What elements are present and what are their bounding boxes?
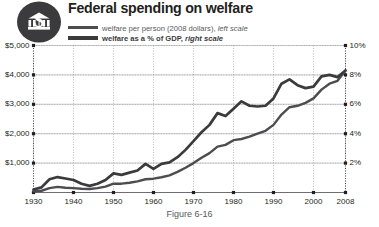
y-axis-right-tick-label: 4% [350, 129, 379, 138]
y-axis-left-tick-label: $2,000 [0, 129, 30, 138]
axis-tick-marks [32, 44, 347, 194]
x-axis-tick-label: 1970 [174, 197, 214, 206]
chart-plot-area: $1,000$2,000$3,000$4,000$5,0002%4%6%8%10… [0, 0, 379, 210]
x-axis-tick-label: 2008 [326, 197, 366, 206]
x-axis-tick-label: 1980 [214, 197, 254, 206]
figure-container: $ Federal spending on welfare welfare pe… [0, 0, 379, 227]
y-axis-left-tick-label: $5,000 [0, 41, 30, 50]
x-axis-tick-label: 1990 [254, 197, 294, 206]
x-axis-tick-label: 1930 [14, 197, 54, 206]
data-series-lines [34, 70, 346, 191]
y-axis-right-tick-label: 2% [350, 158, 379, 167]
y-axis-left-tick-label: $4,000 [0, 70, 30, 79]
y-axis-right-tick-label: 8% [350, 70, 379, 79]
y-axis-right-tick-label: 6% [350, 99, 379, 108]
x-axis-tick-label: 1960 [134, 197, 174, 206]
y-axis-left-tick-label: $1,000 [0, 158, 30, 167]
x-axis-tick-label: 1940 [54, 197, 94, 206]
axis-lines [34, 46, 346, 193]
figure-caption: Figure 6-16 [0, 209, 379, 219]
x-axis-tick-label: 1950 [94, 197, 134, 206]
y-axis-left-tick-label: $3,000 [0, 99, 30, 108]
y-axis-right-tick-label: 10% [350, 41, 379, 50]
gridlines-right-scale [34, 46, 346, 193]
